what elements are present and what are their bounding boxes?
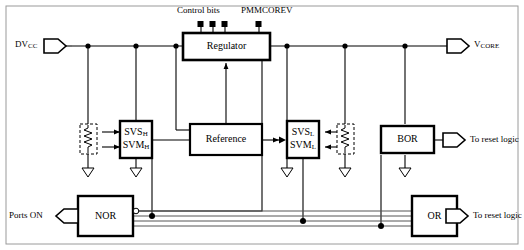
ground-icon-svsl xyxy=(281,168,293,177)
junction-dot-dvcc-1 xyxy=(85,43,90,48)
nor-invert-bubble xyxy=(133,208,139,214)
ports-on-label: Ports ON xyxy=(9,211,43,220)
or-reset-label: To reset logic xyxy=(473,211,522,220)
pmm-block-diagram: DVCC VCORE Control bits PMMCOREV Regulat… xyxy=(0,0,524,250)
junction-dot-vcore-1 xyxy=(284,43,289,48)
vcore-subscript: CORE xyxy=(481,42,500,50)
ground-symbols xyxy=(82,168,411,177)
junction-dot-bus-svsh xyxy=(149,213,155,219)
vcore-connector-shape xyxy=(447,39,469,53)
divider-low xyxy=(337,124,354,154)
nor-label: NOR xyxy=(78,211,133,221)
junction-dot-bus-svsl xyxy=(300,218,306,224)
or-label: OR xyxy=(412,211,457,221)
control-bits-label: Control bits xyxy=(177,6,220,15)
vcore-label: VCORE xyxy=(474,40,499,50)
ground-icon-bor xyxy=(399,168,411,177)
dvcc-subscript: CC xyxy=(28,42,37,50)
pmmcorev-label: PMMCOREV xyxy=(241,6,293,15)
svs-high-line1: SVSH xyxy=(120,126,152,139)
junction-dot-dvcc-3 xyxy=(173,43,178,48)
control-terminals[interactable] xyxy=(198,21,262,27)
svs-high-line2: SVMH xyxy=(120,139,152,152)
control-bit-terminal-1 xyxy=(198,21,204,27)
pmmcorev-terminal xyxy=(256,21,262,27)
dvcc-connector-shape xyxy=(44,39,66,53)
svs-low-line2: SVML xyxy=(287,139,319,152)
svsl-left-input-arrow xyxy=(279,137,286,144)
junction-dot-vcore-3 xyxy=(402,43,407,48)
dvcc-label: DVCC xyxy=(15,40,37,50)
junction-dot-vcore-2 xyxy=(342,43,347,48)
junction-dot-bus-bor xyxy=(378,223,384,229)
ports-on-connector-shape xyxy=(56,209,78,223)
bor-label: BOR xyxy=(381,134,434,144)
bus-lines xyxy=(133,211,412,226)
reference-label: Reference xyxy=(190,134,262,144)
regulator-label: Regulator xyxy=(183,41,270,51)
divider-high xyxy=(80,124,97,154)
bor-reset-label: To reset logic xyxy=(470,135,519,144)
ground-icon-svsh xyxy=(130,168,142,177)
svs-low-label: SVSL SVML xyxy=(287,126,319,151)
svs-high-label: SVSH SVMH xyxy=(120,126,152,151)
bor-reset-connector-shape xyxy=(443,133,465,147)
control-bit-terminal-2 xyxy=(210,21,216,27)
svs-low-line1: SVSL xyxy=(287,126,319,139)
ground-icon-divider-low xyxy=(339,168,351,177)
ground-icon-divider-high xyxy=(82,168,94,177)
control-bit-terminal-3 xyxy=(222,21,228,27)
junction-dot-dvcc-2 xyxy=(133,43,138,48)
